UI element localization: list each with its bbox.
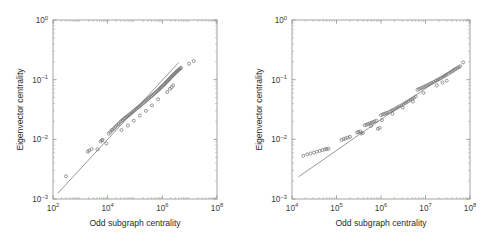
x-axis-label: Odd subgraph centrality: [89, 218, 181, 228]
y-tick-label: 100: [275, 15, 287, 25]
x-tick-label: 105: [330, 202, 342, 212]
x-tick-label: 108: [464, 202, 476, 212]
x-tick-label: 104: [101, 202, 114, 212]
y-tick-label: 10−2: [32, 134, 48, 144]
x-tick-label: 106: [375, 202, 387, 212]
plot-area: [53, 20, 217, 199]
y-tick-label: 10−1: [271, 74, 287, 84]
y-tick-label: 10−2: [271, 134, 287, 144]
chart-svg: 10410510610710810−310−210−1100Odd subgra…: [246, 0, 493, 249]
x-tick-label: 108: [211, 202, 223, 212]
figure-two-panel-scatter: 10210410610810−310−210−1100Odd subgraph …: [0, 0, 493, 249]
chart-panel-left: 10210410610810−310−210−1100Odd subgraph …: [0, 0, 247, 249]
chart-svg: 10210410610810−310−210−1100Odd subgraph …: [0, 0, 247, 249]
y-axis-label: Eigenvector centrality: [15, 68, 25, 151]
x-axis-label: Odd subgraph centrality: [335, 218, 427, 228]
y-tick-label: 10−3: [32, 194, 48, 204]
x-tick-label: 107: [419, 202, 431, 212]
x-tick-label: 106: [156, 202, 168, 212]
chart-panel-right: 10410510610710810−310−210−1100Odd subgra…: [246, 0, 493, 249]
plot-area: [292, 20, 470, 199]
y-tick-label: 10−1: [32, 74, 48, 84]
y-tick-label: 100: [36, 15, 48, 25]
y-axis-label: Eigenvector centrality: [254, 68, 264, 151]
x-tick-label: 104: [286, 202, 299, 212]
x-tick-label: 102: [47, 202, 59, 212]
y-tick-label: 10−3: [271, 194, 287, 204]
